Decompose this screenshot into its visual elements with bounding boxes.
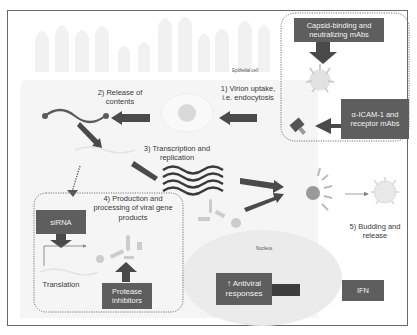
microvilli: [35, 17, 270, 72]
step1-label: 1) Virion uptake, i.e. endocytosis: [208, 84, 288, 103]
step5-label: 5) Budding and release: [340, 222, 410, 241]
nucleus-label: Nucleus: [256, 246, 272, 251]
step3-label: 3) Transcription and replication: [132, 144, 222, 163]
ifn-box: IFN: [342, 280, 384, 301]
epithelial-cell-label: Epithelial cell: [232, 68, 258, 73]
icam1-receptor-mabs-box: α-ICAM-1 and receptor mAbs: [341, 99, 409, 139]
step4-label: 4) Production and processing of viral ge…: [85, 194, 181, 222]
capsid-binding-mabs-box: Capsid-binding and neutralizing mAbs: [294, 18, 384, 42]
sirna-box: siRNA: [36, 210, 86, 234]
protease-inhibitors-box: Protease inhibitors: [102, 283, 152, 309]
released-virion-icon: [371, 177, 399, 204]
step2-label: 2) Release of contents: [85, 88, 155, 107]
antiviral-responses-box: ↑ Antiviral responses: [216, 273, 272, 305]
translation-label: Translation: [36, 280, 86, 289]
